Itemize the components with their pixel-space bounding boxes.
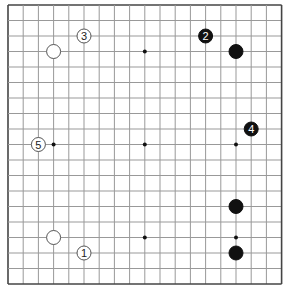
- star-point: [234, 236, 238, 240]
- move-number-label: 1: [81, 247, 87, 259]
- star-point: [143, 236, 147, 240]
- white-stone: [47, 45, 61, 59]
- move-number-label: 5: [35, 139, 41, 151]
- move-number-label: 2: [203, 30, 209, 42]
- white-stone: [47, 231, 61, 245]
- star-point: [234, 143, 238, 147]
- numbered-move: 2: [199, 29, 213, 43]
- stone: [47, 231, 61, 245]
- move-number-label: 4: [248, 123, 254, 135]
- numbered-move: 4: [244, 122, 258, 136]
- numbered-move: 5: [31, 138, 45, 152]
- black-stone: [229, 45, 243, 59]
- numbered-move: 3: [77, 29, 91, 43]
- stone: [229, 246, 243, 260]
- star-point: [143, 50, 147, 54]
- star-point: [52, 143, 56, 147]
- star-point: [143, 143, 147, 147]
- move-number-label: 3: [81, 30, 87, 42]
- black-stone: [229, 200, 243, 214]
- stone: [229, 200, 243, 214]
- stone: [47, 45, 61, 59]
- stone: [229, 45, 243, 59]
- black-stone: [229, 246, 243, 260]
- go-board: 12345: [0, 0, 289, 291]
- numbered-move: 1: [77, 246, 91, 260]
